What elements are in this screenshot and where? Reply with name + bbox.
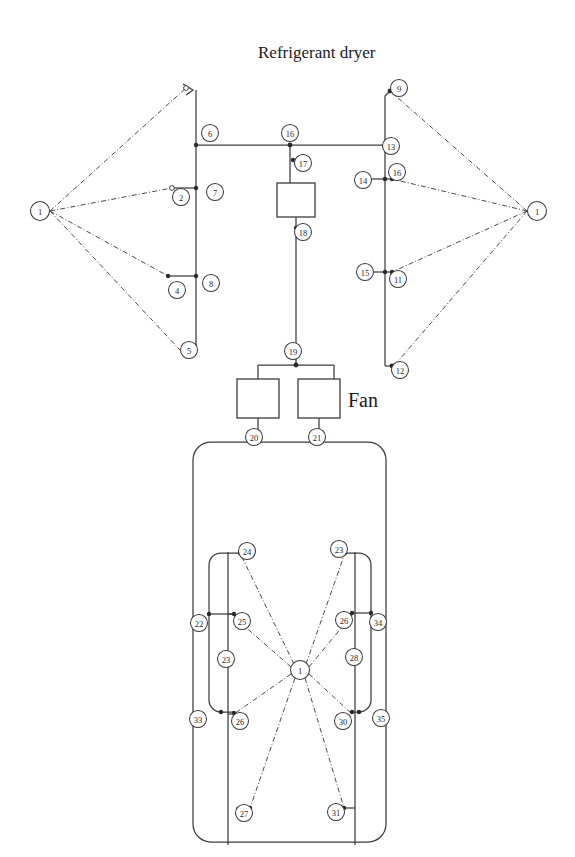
node-label: 2 <box>179 193 183 203</box>
junction-dot <box>383 270 387 274</box>
junction-dot <box>194 186 198 190</box>
node-6: 6 <box>202 125 219 142</box>
junction-dot <box>166 274 170 278</box>
fan-box-right <box>298 379 340 418</box>
junction-dot <box>369 611 373 615</box>
node-8: 8 <box>203 275 220 292</box>
junction-dot <box>294 363 299 368</box>
node-label: 26 <box>236 717 245 727</box>
node-17: 17 <box>295 155 312 172</box>
node-label: 27 <box>240 809 249 819</box>
node-label: 22 <box>195 619 204 629</box>
node-label: 8 <box>209 279 213 289</box>
node-label: 28 <box>350 653 359 663</box>
spoke-hub-27 <box>250 678 295 808</box>
link-1-to-4 <box>50 211 168 276</box>
link-1-to-5 <box>50 211 180 350</box>
fan-label: Fan <box>348 389 378 411</box>
node-16: 16 <box>389 164 406 181</box>
node-label: 33 <box>194 715 203 725</box>
refrigerant-dryer-schematic: 1627485191316141511121617181920211242322… <box>0 0 575 857</box>
junction-dot <box>357 710 361 714</box>
junction-dot <box>350 710 354 714</box>
left-cluster-dashdot-lines <box>50 88 186 350</box>
node-34: 34 <box>370 614 387 631</box>
node-33: 33 <box>190 711 207 728</box>
node-label: 6 <box>208 129 212 139</box>
node-label: 5 <box>187 346 191 356</box>
node-label: 7 <box>213 188 217 198</box>
node-label: 12 <box>396 366 405 376</box>
node-28: 28 <box>346 649 363 666</box>
node-label: 23 <box>335 545 344 555</box>
center-column <box>277 143 315 360</box>
dryer-box <box>277 183 315 217</box>
node-24: 24 <box>239 543 256 560</box>
node-label: 24 <box>243 547 252 557</box>
node-18: 18 <box>295 224 312 241</box>
bottom-hub-spokes <box>234 553 352 808</box>
open-junction-dot <box>184 86 189 91</box>
junction-dot <box>194 274 198 278</box>
node-19: 19 <box>285 343 302 360</box>
node-11: 11 <box>390 271 407 288</box>
node-label: 1 <box>535 207 539 217</box>
fan-box-left <box>237 379 279 418</box>
node-5: 5 <box>181 342 198 359</box>
node-12: 12 <box>392 362 409 379</box>
diagram-canvas: 1627485191316141511121617181920211242322… <box>0 0 575 857</box>
link-1-to-top <box>50 88 186 211</box>
junction-dot <box>219 710 223 714</box>
diagram-title: Refrigerant dryer <box>258 43 376 62</box>
node-14: 14 <box>355 172 372 189</box>
node-label: 23 <box>222 655 231 665</box>
node-26: 26 <box>232 713 249 730</box>
node-25: 25 <box>234 613 251 630</box>
node-label: 31 <box>332 808 341 818</box>
node-20: 20 <box>246 429 263 446</box>
fan-section <box>237 360 340 434</box>
junction-dot <box>194 143 198 147</box>
node-label: 13 <box>387 142 396 152</box>
node-label: 1 <box>298 666 302 676</box>
node-31: 31 <box>328 804 345 821</box>
node-label: 16 <box>286 129 295 139</box>
node-1: 1 <box>528 202 547 221</box>
node-label: 11 <box>394 275 402 285</box>
node-9: 9 <box>391 80 408 97</box>
node-label: 19 <box>289 347 298 357</box>
node-22: 22 <box>191 615 208 632</box>
node-16: 16 <box>282 125 299 142</box>
node-23: 23 <box>331 541 348 558</box>
spoke-hub-26 <box>234 674 291 714</box>
node-label: 17 <box>299 159 308 169</box>
open-junction-dot <box>170 186 175 191</box>
link-1r-to-11 <box>392 211 527 272</box>
node-15: 15 <box>357 264 374 281</box>
right-top-hook <box>345 553 371 565</box>
node-label: 14 <box>359 176 368 186</box>
link-1-to-2 <box>50 188 172 211</box>
junction-dot <box>207 612 211 616</box>
node-7: 7 <box>207 184 224 201</box>
node-label: 9 <box>397 84 401 94</box>
left-junction-dots <box>166 86 198 279</box>
node-26: 26 <box>336 612 353 629</box>
node-label: 25 <box>238 617 247 627</box>
node-label: 15 <box>361 268 370 278</box>
node-1: 1 <box>31 202 50 221</box>
node-1: 1 <box>291 661 310 680</box>
node-2: 2 <box>173 189 190 206</box>
link-1r-to-12 <box>394 211 527 366</box>
bottom-enclosure <box>193 432 386 842</box>
node-35: 35 <box>373 710 390 727</box>
node-23: 23 <box>218 651 235 668</box>
node-label: 16 <box>393 168 402 178</box>
left-cluster-solid-lines <box>168 84 290 355</box>
link-1r-to-16 <box>392 179 527 211</box>
bottom-left-ladder <box>209 552 250 845</box>
enclosure-outline <box>193 442 386 842</box>
left-top-hook <box>209 553 240 565</box>
junction-dot <box>288 143 293 148</box>
node-label: 1 <box>38 207 42 217</box>
